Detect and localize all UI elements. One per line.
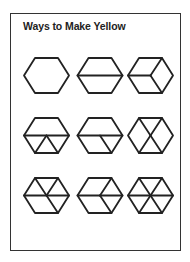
division-line (139, 196, 151, 214)
hexagon-figure-1 (24, 58, 69, 93)
hexagon-figure-3 (128, 58, 173, 93)
division-line (151, 76, 163, 94)
division-line (100, 178, 112, 196)
hexagon-figure-5 (78, 118, 123, 153)
division-line (35, 136, 47, 154)
hexagon-figure-2 (78, 58, 123, 93)
division-line (139, 178, 151, 196)
division-line (151, 118, 163, 136)
division-line (47, 196, 59, 214)
division-line (35, 178, 47, 196)
hexagon-figure-9 (128, 178, 173, 213)
division-line (139, 118, 151, 136)
division-line (151, 136, 163, 154)
hexagon-figure-7 (24, 178, 69, 213)
hexagon-figure-4 (24, 118, 69, 153)
hexagon-figure-6 (128, 118, 173, 153)
division-line (100, 196, 112, 214)
hexagon-figure-8 (78, 178, 123, 213)
division-line (47, 178, 59, 196)
hexagon-outline (24, 58, 69, 93)
division-line (47, 136, 59, 154)
division-line (100, 136, 112, 154)
division-line (151, 196, 163, 214)
division-line (151, 178, 163, 196)
hexagon-grid (0, 0, 190, 262)
division-line (139, 136, 151, 154)
division-line (151, 58, 163, 76)
